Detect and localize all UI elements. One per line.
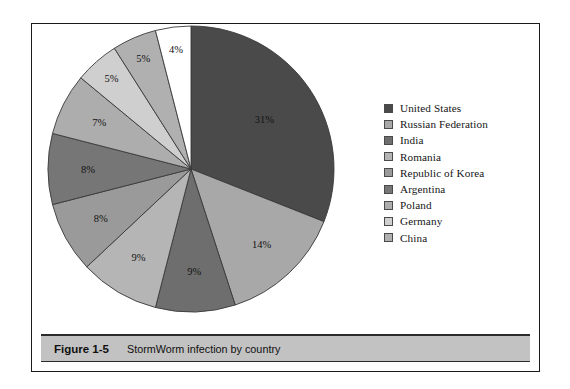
pie-data-label: 9% bbox=[132, 252, 146, 263]
pie-data-label: 5% bbox=[136, 53, 150, 64]
legend-item-label: Poland bbox=[400, 199, 432, 211]
chart-legend: United StatesRussian FederationIndiaRoma… bbox=[384, 100, 534, 246]
legend-color-swatch bbox=[384, 233, 393, 242]
legend-item: Republic of Korea bbox=[384, 165, 534, 181]
pie-data-label: 31% bbox=[255, 114, 274, 125]
figure-container: 31%14%9%9%8%8%7%5%5%4% United StatesRuss… bbox=[0, 0, 570, 389]
legend-color-swatch bbox=[384, 201, 393, 210]
legend-item-label: China bbox=[400, 232, 427, 244]
legend-item: Russian Federation bbox=[384, 116, 534, 132]
legend-color-swatch bbox=[384, 120, 393, 129]
figure-caption-bar: Figure 1-5 StormWorm infection by countr… bbox=[41, 334, 530, 362]
legend-item: Germany bbox=[384, 213, 534, 229]
chart-plot-area: 31%14%9%9%8%8%7%5%5%4% United StatesRuss… bbox=[32, 24, 539, 371]
pie-data-label: 8% bbox=[81, 164, 95, 175]
legend-item: Romania bbox=[384, 149, 534, 165]
legend-item: United States bbox=[384, 100, 534, 116]
legend-color-swatch bbox=[384, 104, 393, 113]
pie-data-label: 5% bbox=[105, 73, 119, 84]
legend-item: China bbox=[384, 230, 534, 246]
legend-item: India bbox=[384, 132, 534, 148]
legend-item-label: Germany bbox=[400, 215, 442, 227]
legend-item-label: India bbox=[400, 134, 424, 146]
figure-frame: 31%14%9%9%8%8%7%5%5%4% United StatesRuss… bbox=[31, 23, 540, 372]
pie-data-label: 8% bbox=[94, 213, 108, 224]
legend-item: Argentina bbox=[384, 181, 534, 197]
legend-item-label: United States bbox=[400, 102, 461, 114]
pie-data-label: 4% bbox=[169, 44, 183, 55]
legend-color-swatch bbox=[384, 152, 393, 161]
legend-color-swatch bbox=[384, 168, 393, 177]
figure-caption-number: Figure 1-5 bbox=[54, 343, 109, 355]
legend-item-label: Romania bbox=[400, 151, 441, 163]
legend-item-label: Russian Federation bbox=[400, 118, 488, 130]
pie-data-label: 7% bbox=[92, 117, 106, 128]
legend-item-label: Republic of Korea bbox=[400, 167, 484, 179]
pie-data-label: 14% bbox=[252, 239, 272, 250]
legend-item-label: Argentina bbox=[400, 183, 445, 195]
figure-caption-text: StormWorm infection by country bbox=[127, 343, 280, 355]
legend-color-swatch bbox=[384, 217, 393, 226]
pie-data-label: 9% bbox=[187, 266, 201, 277]
legend-color-swatch bbox=[384, 185, 393, 194]
pie-chart: 31%14%9%9%8%8%7%5%5%4% bbox=[46, 24, 336, 314]
legend-color-swatch bbox=[384, 136, 393, 145]
legend-item: Poland bbox=[384, 197, 534, 213]
